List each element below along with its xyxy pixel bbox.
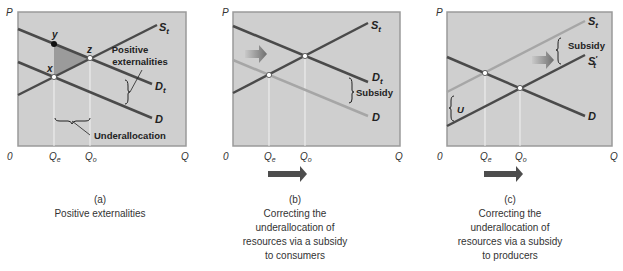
demand-label: D: [372, 111, 380, 123]
quantity-axis-label: Q: [395, 151, 403, 162]
panel-b-caption: (b) Correcting the underallocation of re…: [205, 193, 385, 263]
panel-c-caption-line: to producers: [420, 249, 600, 263]
panel-c-caption-letter: (c): [420, 193, 600, 207]
origin-label: 0: [7, 151, 13, 162]
price-axis-label: P: [222, 7, 229, 18]
origin-label: 0: [223, 151, 229, 162]
price-axis-label: P: [436, 7, 443, 18]
subsidy-label: Subsidy: [568, 40, 606, 51]
panel-b-caption-line: resources via a subsidy: [205, 235, 385, 249]
point-x-label: x: [46, 63, 53, 74]
origin-label: 0: [437, 151, 443, 162]
panel-b-caption-line: to consumers: [205, 249, 385, 263]
price-axis-label: P: [6, 7, 13, 18]
point-y-marker: [51, 41, 57, 47]
positive-externalities-label-line2: externalities: [112, 56, 167, 67]
quantity-increase-arrow-icon: [268, 166, 307, 182]
u-label: U: [457, 104, 465, 115]
point-z-label: z: [86, 44, 92, 55]
panel-a-caption: (a) Positive externalities: [35, 193, 165, 221]
initial-equilibrium-marker: [266, 72, 271, 77]
positive-externalities-label-line1: Positive: [112, 44, 148, 55]
panel-b-chart: Subsidy St Dt D P 0 Qe Qo Q: [222, 7, 403, 182]
panel-c-caption-line: Correcting the: [420, 207, 600, 221]
qo-tick-label: Qo: [300, 151, 312, 163]
panel-b-caption-line: Correcting the: [205, 207, 385, 221]
initial-equilibrium-marker: [482, 70, 487, 75]
quantity-axis-label: Q: [610, 151, 618, 162]
qe-tick-label: Qe: [480, 151, 492, 163]
panel-c-chart: Subsidy U St S′t D P 0 Qe Qo Q: [436, 7, 618, 182]
qe-tick-label: Qe: [49, 151, 61, 163]
underallocation-label: Underallocation: [94, 130, 166, 141]
demand-label: D: [155, 113, 163, 125]
subsidy-label: Subsidy: [356, 87, 394, 98]
panel-b-caption-line: underallocation of: [205, 221, 385, 235]
panel-b-caption-letter: (b): [205, 193, 385, 207]
point-z-marker: [87, 55, 92, 60]
point-x-marker: [51, 74, 56, 79]
optimal-equilibrium-marker: [302, 53, 307, 58]
panel-a-chart: y z x St Dt D Positive externalities Und…: [6, 7, 189, 163]
panel-c-caption-line: underallocation of: [420, 221, 600, 235]
point-y-label: y: [51, 29, 58, 40]
quantity-axis-label: Q: [181, 151, 189, 162]
qe-tick-label: Qe: [264, 151, 276, 163]
panel-a-caption-line: Positive externalities: [35, 207, 165, 221]
quantity-increase-arrow-icon: [484, 166, 523, 182]
qo-tick-label: Qo: [85, 151, 97, 163]
qo-tick-label: Qo: [515, 151, 527, 163]
panel-a-caption-letter: (a): [35, 193, 165, 207]
panel-c-caption-line: resources via a subsidy: [420, 235, 600, 249]
demand-label: D: [588, 110, 596, 122]
optimal-equilibrium-marker: [517, 85, 522, 90]
panel-c-caption: (c) Correcting the underallocation of re…: [420, 193, 600, 263]
